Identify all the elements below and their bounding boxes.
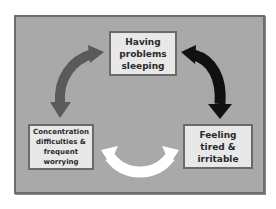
node-label: Concentration difficulties & frequent wo…: [33, 127, 89, 167]
node-feeling-tired-irritable: Feeling tired & irritable: [183, 124, 253, 169]
curved-double-arrow-icon-bottom: [101, 146, 179, 172]
curved-double-arrow-icon-right: [181, 45, 232, 119]
node-label: Feeling tired & irritable: [197, 129, 238, 165]
curved-double-arrow-icon-left: [50, 45, 104, 118]
node-having-problems-sleeping: Having problems sleeping: [109, 31, 177, 76]
node-label: Having problems sleeping: [119, 36, 166, 72]
node-concentration-difficulties: Concentration difficulties & frequent wo…: [28, 124, 94, 170]
